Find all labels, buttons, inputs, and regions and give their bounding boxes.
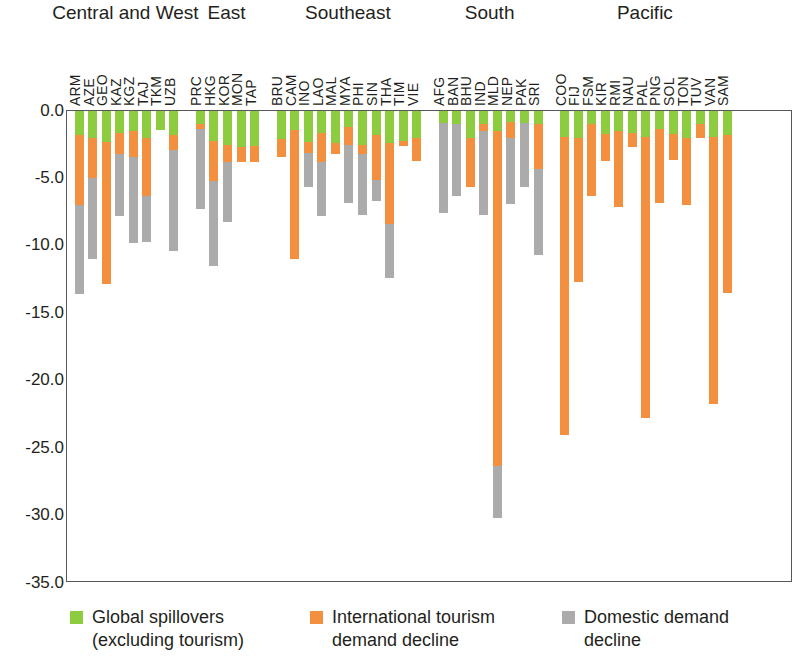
bar-segment-international-tourism-decline-bru <box>277 139 286 157</box>
legend-item-orange[interactable]: International tourism demand decline <box>310 606 495 652</box>
bar-segment-domestic-demand-decline-sin <box>372 180 381 202</box>
y-axis-tick-neg25: -25.0 <box>2 439 64 456</box>
legend-item-green[interactable]: Global spillovers (excluding tourism) <box>70 606 244 652</box>
category-label-sam: SAM <box>716 75 730 106</box>
bar-segment-international-tourism-decline-ton <box>682 138 691 205</box>
bar-segment-global-spillovers-ino <box>304 111 313 142</box>
bar-segment-global-spillovers-uzb <box>169 111 178 135</box>
bar-segment-global-spillovers-phi <box>358 111 367 145</box>
category-label-sin: SIN <box>365 82 379 106</box>
bar-segment-international-tourism-decline-kaz <box>115 133 124 155</box>
bar-segment-global-spillovers-sol <box>669 111 678 134</box>
category-label-row: ARMAZEGEOKAZKGZTAJTKMUZBPRCHKGKORMONTAPB… <box>0 28 796 106</box>
bar-segment-domestic-demand-decline-tha <box>385 224 394 278</box>
bar-segment-global-spillovers-kir <box>601 111 610 134</box>
category-label-tap: TAP <box>244 79 258 106</box>
bar-segment-domestic-demand-decline-uzb <box>169 150 178 251</box>
group-header-pacific: Pacific <box>535 2 755 24</box>
bar-segment-global-spillovers-geo <box>102 111 111 142</box>
bar-segment-domestic-demand-decline-mld <box>493 466 502 519</box>
bar-segment-domestic-demand-decline-afg <box>439 123 448 213</box>
bar-segment-domestic-demand-decline-ban <box>452 124 461 195</box>
category-label-sol: SOL <box>662 77 676 106</box>
bar-segment-international-tourism-decline-hkg <box>209 141 218 181</box>
bar-segment-international-tourism-decline-tuv <box>696 124 705 137</box>
bar-segment-international-tourism-decline-pal <box>641 137 650 419</box>
bar-segment-international-tourism-decline-png <box>655 129 664 203</box>
bar-segment-international-tourism-decline-vie <box>412 138 421 161</box>
legend-item-gray[interactable]: Domestic demand decline <box>562 606 729 652</box>
bar-segment-international-tourism-decline-mld <box>493 131 502 465</box>
bar-segment-international-tourism-decline-ind <box>479 124 488 131</box>
bar-segment-global-spillovers-ban <box>452 111 461 124</box>
bar-segment-domestic-demand-decline-kor <box>223 162 232 221</box>
bar-segment-global-spillovers-tha <box>385 111 394 143</box>
bar-segment-domestic-demand-decline-kgz <box>129 157 138 243</box>
bar-segment-international-tourism-decline-kor <box>223 145 232 163</box>
bar-segment-international-tourism-decline-ino <box>304 142 313 153</box>
bar-segment-international-tourism-decline-mon <box>237 147 246 162</box>
bar-segment-international-tourism-decline-van <box>709 137 718 404</box>
bar-segment-global-spillovers-tap <box>250 111 259 146</box>
bar-segment-global-spillovers-pak <box>520 111 529 123</box>
bar-segment-international-tourism-decline-taj <box>142 138 151 196</box>
bar-segment-domestic-demand-decline-mya <box>344 145 353 203</box>
bar-segment-global-spillovers-van <box>709 111 718 137</box>
bar-segment-domestic-demand-decline-phi <box>358 154 367 215</box>
bar-segment-domestic-demand-decline-kaz <box>115 154 124 216</box>
bar-segment-domestic-demand-decline-aze <box>88 178 97 259</box>
y-axis-tick-neg15: -15.0 <box>2 304 64 321</box>
bar-segment-international-tourism-decline-mal <box>331 143 340 154</box>
category-label-sri: SRI <box>527 82 541 106</box>
bar-segment-international-tourism-decline-sol <box>669 134 678 160</box>
group-header-row: Central and WestEastSoutheastSouthPacifi… <box>0 2 796 26</box>
bar-segment-domestic-demand-decline-ind <box>479 131 488 215</box>
bar-segment-global-spillovers-tkm <box>156 111 165 130</box>
bar-segment-domestic-demand-decline-hkg <box>209 181 218 266</box>
bar-segment-global-spillovers-mya <box>344 111 353 127</box>
gray-square-swatch <box>562 611 575 624</box>
bar-segment-international-tourism-decline-sri <box>534 124 543 169</box>
bar-segment-international-tourism-decline-uzb <box>169 135 178 150</box>
bar-segment-international-tourism-decline-rmi <box>614 131 623 207</box>
bar-segment-international-tourism-decline-fij <box>574 138 583 282</box>
bar-segment-global-spillovers-mon <box>237 111 246 147</box>
bar-segment-domestic-demand-decline-nep <box>506 138 515 204</box>
bar-segment-global-spillovers-sam <box>723 111 732 135</box>
bar-segment-international-tourism-decline-lao <box>317 133 326 163</box>
bar-segment-global-spillovers-aze <box>88 111 97 138</box>
bar-segment-global-spillovers-fij <box>574 111 583 138</box>
category-label-tuv: TUV <box>689 77 703 106</box>
y-axis-tick-neg35: -35.0 <box>2 574 64 591</box>
bar-segment-global-spillovers-tim <box>399 111 408 141</box>
y-axis-tick-neg5: -5.0 <box>2 169 64 186</box>
bar-segment-global-spillovers-cam <box>290 111 299 130</box>
legend-label: International tourism demand decline <box>332 606 495 652</box>
bar-segment-international-tourism-decline-mya <box>344 127 353 145</box>
bar-segment-global-spillovers-kor <box>223 111 232 145</box>
legend-label: Global spillovers (excluding tourism) <box>92 606 244 652</box>
plot-area <box>66 110 792 582</box>
bar-segment-domestic-demand-decline-taj <box>142 196 151 242</box>
bar-segment-international-tourism-decline-tim <box>399 141 408 146</box>
bar-segment-domestic-demand-decline-prc <box>196 129 205 210</box>
category-label-tim: TIM <box>392 81 406 106</box>
y-axis: 0.0-5.0-10.0-15.0-20.0-25.0-30.0-35.0 <box>0 100 64 600</box>
bar-segment-domestic-demand-decline-sri <box>534 169 543 255</box>
bar-segment-global-spillovers-mld <box>493 111 502 131</box>
bar-segment-global-spillovers-rmi <box>614 111 623 131</box>
bar-segment-international-tourism-decline-sin <box>372 135 381 180</box>
bar-segment-domestic-demand-decline-lao <box>317 162 326 216</box>
bar-segment-global-spillovers-fsm <box>587 111 596 124</box>
category-label-nep: NEP <box>500 77 514 106</box>
bar-segment-international-tourism-decline-nep <box>506 122 515 138</box>
bar-segment-global-spillovers-nep <box>506 111 515 122</box>
stacked-bar-chart-figure: Central and WestEastSoutheastSouthPacifi… <box>0 0 796 661</box>
bar-segment-global-spillovers-sin <box>372 111 381 135</box>
category-label-geo: GEO <box>95 74 109 106</box>
bar-segment-global-spillovers-coo <box>560 111 569 137</box>
bar-segment-international-tourism-decline-nau <box>628 133 637 148</box>
bar-segment-international-tourism-decline-tha <box>385 143 394 224</box>
y-axis-tick-neg10: -10.0 <box>2 236 64 253</box>
y-axis-tick-neg20: -20.0 <box>2 371 64 388</box>
